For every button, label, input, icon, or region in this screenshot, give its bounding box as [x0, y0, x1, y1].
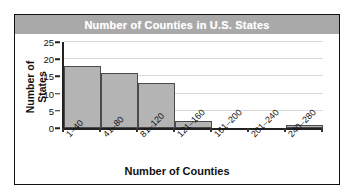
y-axis-tick-mark	[55, 41, 60, 43]
y-axis-tick-mark	[55, 58, 60, 60]
x-axis-tick-mark	[321, 128, 323, 132]
histogram-bin	[64, 42, 101, 128]
y-axis-tick-label: 0	[49, 123, 54, 134]
y-axis-tick-mark	[55, 110, 60, 112]
y-axis-tick-label: 25	[43, 37, 54, 48]
y-axis-tick-label: 10	[43, 88, 54, 99]
y-axis-tick-label: 5	[49, 105, 54, 116]
bar	[64, 66, 101, 128]
chart-title: Number of Counties in U.S. States	[84, 19, 269, 31]
chart-frame: Number of Counties in U.S. States Number…	[14, 14, 340, 185]
y-axis-ticks: 0510152025	[15, 37, 60, 133]
chart-title-band: Number of Counties in U.S. States	[15, 15, 339, 34]
y-axis-tick-mark	[55, 93, 60, 95]
y-axis-tick-label: 15	[43, 71, 54, 82]
y-axis-tick-mark	[55, 76, 60, 78]
y-axis-tick-label: 20	[43, 54, 54, 65]
y-axis-tick-mark	[55, 127, 60, 129]
x-axis-title: Number of Counties	[15, 165, 339, 177]
